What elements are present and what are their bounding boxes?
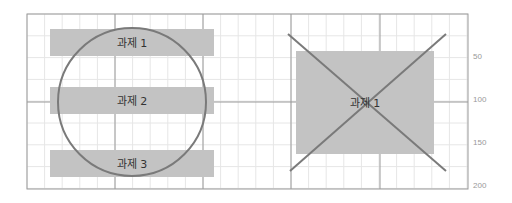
task-bar-label: 과제 3 xyxy=(117,158,148,171)
diagram-canvas: 과제 1과제 2과제 3과제 1 50100150200 xyxy=(0,0,512,203)
axis-tick-label: 50 xyxy=(473,52,482,61)
task-box-label: 과제 1 xyxy=(350,97,381,110)
axis-tick-label: 100 xyxy=(473,95,487,104)
task-bar-label: 과제 1 xyxy=(117,37,148,50)
axis-tick-label: 150 xyxy=(473,138,487,147)
axis-ticks: 50100150200 xyxy=(473,52,487,190)
task-bar-label: 과제 2 xyxy=(117,95,148,108)
axis-tick-label: 200 xyxy=(473,181,487,190)
